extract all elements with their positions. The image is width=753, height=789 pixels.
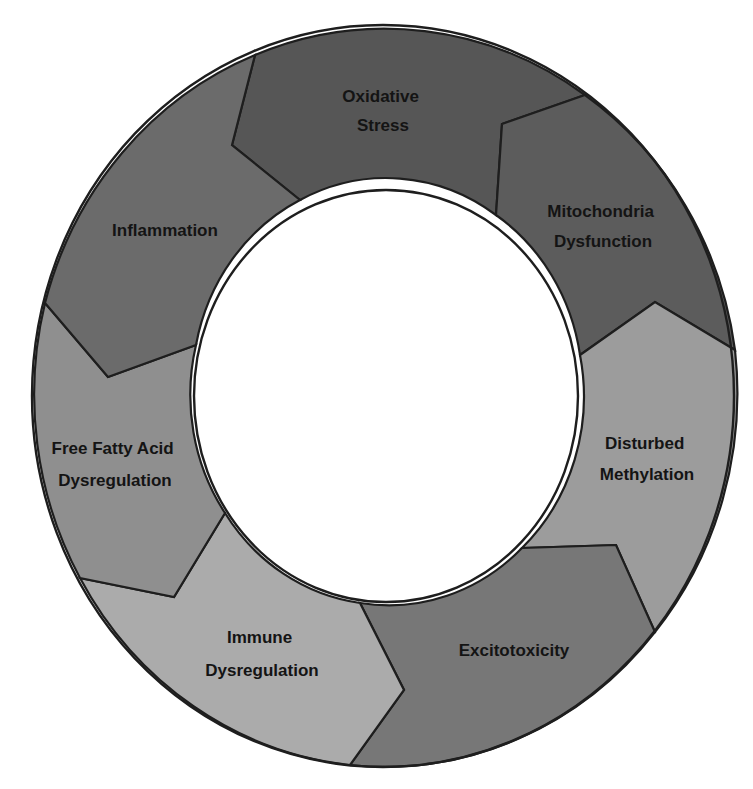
inner-circle: [194, 190, 578, 602]
label-excitotoxicity: Excitotoxicity: [459, 641, 570, 660]
cycle-diagram: Oxidative Stress Mitochondria Dysfunctio…: [0, 0, 753, 789]
label-inflammation: Inflammation: [112, 221, 218, 240]
